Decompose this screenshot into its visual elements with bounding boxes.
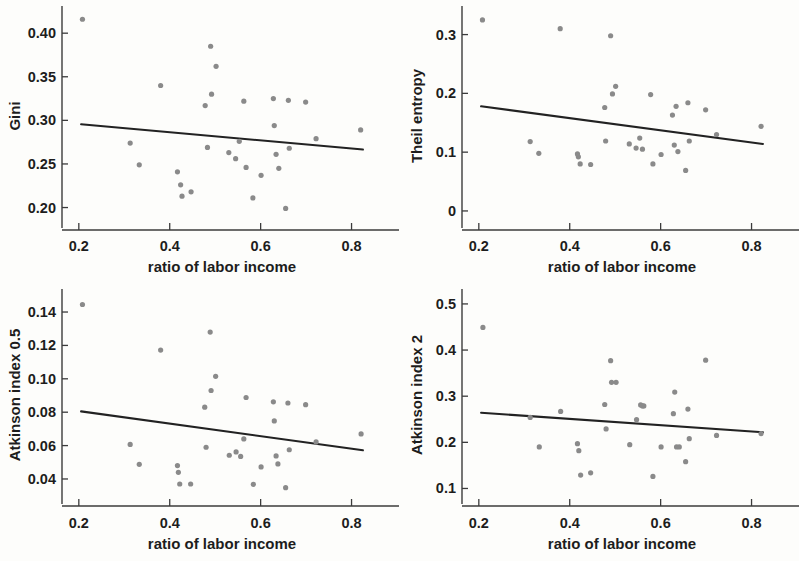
data-point	[238, 454, 243, 459]
data-point	[209, 92, 214, 97]
data-point	[137, 462, 142, 467]
data-point	[575, 441, 580, 446]
x-tick-label: 0.8	[741, 515, 761, 531]
y-tick-label: 0.4	[436, 342, 456, 358]
data-point	[641, 403, 646, 408]
panel-theil-entropy-content: 00.10.20.30.20.40.60.8ratio of labor inc…	[408, 6, 799, 275]
data-point	[287, 146, 292, 151]
data-point	[640, 147, 645, 152]
data-point	[275, 461, 280, 466]
data-point	[208, 388, 213, 393]
panel-atkinson-index-2: 0.10.20.30.40.50.20.40.60.8ratio of labo…	[400, 281, 799, 561]
x-tick-label: 0.6	[251, 238, 271, 254]
data-point	[213, 64, 218, 69]
data-point	[627, 442, 632, 447]
y-tick-label: 0.2	[436, 85, 456, 101]
data-point	[578, 161, 583, 166]
panel-atkinson-index-05: 0.040.060.080.100.120.140.20.40.60.8rati…	[0, 281, 400, 561]
y-tick-label: 0.14	[28, 304, 56, 320]
data-point	[703, 107, 708, 112]
data-point	[683, 168, 688, 173]
data-point	[243, 165, 248, 170]
x-tick-label: 0.6	[651, 238, 671, 254]
y-tick-label: 0.20	[28, 200, 56, 216]
data-point	[283, 206, 288, 211]
data-point	[272, 418, 277, 423]
data-point	[158, 347, 163, 352]
data-point	[226, 150, 231, 155]
data-point	[271, 96, 276, 101]
data-point	[650, 161, 655, 166]
data-point	[241, 99, 246, 104]
four-panel-scatter-figure: 0.200.250.300.350.400.20.40.60.8ratio of…	[0, 0, 799, 561]
data-point	[671, 411, 676, 416]
x-tick-label: 0.6	[651, 515, 671, 531]
data-point	[203, 445, 208, 450]
trend-line	[481, 106, 763, 144]
y-axis-title: Gini	[6, 101, 23, 130]
data-point	[558, 409, 563, 414]
data-point	[179, 194, 184, 199]
data-point	[687, 138, 692, 143]
data-point	[258, 464, 263, 469]
x-tick-label: 0.6	[251, 515, 271, 531]
data-point	[610, 91, 615, 96]
data-point	[703, 358, 708, 363]
data-point	[602, 402, 607, 407]
data-point	[80, 17, 85, 22]
x-axis-title: ratio of labor income	[148, 535, 296, 552]
data-point	[685, 407, 690, 412]
panel-gini: 0.200.250.300.350.400.20.40.60.8ratio of…	[0, 0, 400, 281]
data-point	[650, 474, 655, 479]
data-point	[558, 26, 563, 31]
y-tick-label: 0.3	[436, 388, 456, 404]
y-tick-label: 0.04	[28, 471, 56, 487]
x-tick-label: 0.2	[469, 515, 489, 531]
panel-gini-content: 0.200.250.300.350.400.20.40.60.8ratio of…	[6, 6, 399, 275]
data-point	[634, 417, 639, 422]
data-point	[250, 195, 255, 200]
data-point	[243, 395, 248, 400]
data-point	[175, 463, 180, 468]
data-point	[683, 459, 688, 464]
data-point	[283, 485, 288, 490]
panel-atkinson-index-2-svg: 0.10.20.30.40.50.20.40.60.8ratio of labo…	[400, 281, 799, 561]
x-tick-label: 0.2	[469, 238, 489, 254]
data-point	[480, 325, 485, 330]
data-point	[241, 436, 246, 441]
data-point	[758, 431, 763, 436]
data-point	[627, 141, 632, 146]
data-point	[286, 98, 291, 103]
data-point	[273, 152, 278, 157]
data-point	[137, 162, 142, 167]
data-point	[576, 448, 581, 453]
panel-gini-svg: 0.200.250.300.350.400.20.40.60.8ratio of…	[0, 0, 400, 281]
x-tick-label: 0.4	[560, 515, 580, 531]
data-point	[613, 84, 618, 89]
x-axis-title: ratio of labor income	[548, 535, 696, 552]
y-tick-label: 0.1	[436, 480, 456, 496]
data-point	[714, 132, 719, 137]
data-point	[714, 433, 719, 438]
panel-atkinson-index-2-content: 0.10.20.30.40.50.20.40.60.8ratio of labo…	[408, 289, 799, 552]
data-point	[303, 402, 308, 407]
y-tick-label: 0.10	[28, 371, 56, 387]
data-point	[637, 135, 642, 140]
y-tick-label: 0.06	[28, 438, 56, 454]
x-tick-label: 0.8	[741, 238, 761, 254]
data-point	[287, 447, 292, 452]
data-point	[358, 431, 363, 436]
panel-atkinson-index-05-content: 0.040.060.080.100.120.140.20.40.60.8rati…	[6, 289, 399, 552]
data-point	[528, 139, 533, 144]
data-point	[588, 470, 593, 475]
data-point	[213, 374, 218, 379]
data-point	[251, 482, 256, 487]
data-point	[633, 145, 638, 150]
data-point	[670, 113, 675, 118]
data-point	[609, 380, 614, 385]
data-point	[313, 439, 318, 444]
y-tick-label: 0.3	[436, 27, 456, 43]
x-tick-label: 0.4	[160, 238, 180, 254]
y-tick-label: 0.30	[28, 112, 56, 128]
data-point	[602, 105, 607, 110]
